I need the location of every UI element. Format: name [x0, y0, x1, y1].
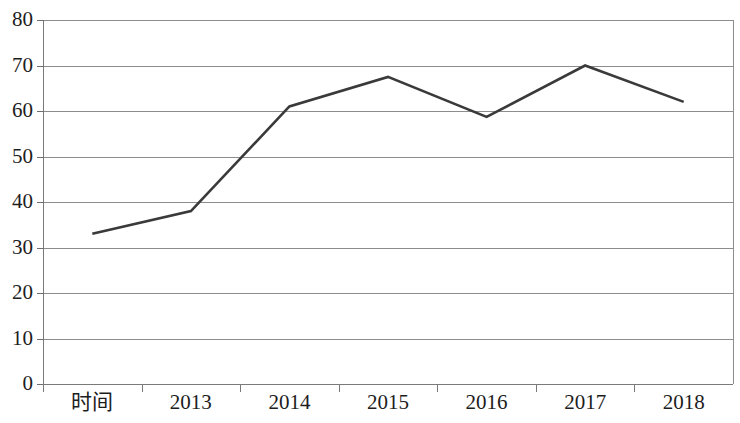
y-axis-label: 50 — [12, 146, 33, 167]
y-axis-label: 20 — [12, 282, 33, 303]
gridline-40 — [43, 202, 733, 203]
y-tick-10 — [37, 339, 44, 340]
x-tick-4 — [437, 384, 438, 392]
gridline-70 — [43, 66, 733, 67]
x-axis-label-时间: 时间 — [71, 392, 113, 413]
x-tick-1 — [142, 384, 143, 392]
x-tick-3 — [339, 384, 340, 392]
plot-right-border — [733, 20, 734, 384]
y-tick-40 — [37, 202, 44, 203]
x-axis-label-2018: 2018 — [663, 392, 705, 413]
y-axis-label: 0 — [23, 373, 34, 394]
y-axis-label: 70 — [12, 55, 33, 76]
y-axis-label: 60 — [12, 100, 33, 121]
y-tick-60 — [37, 111, 44, 112]
gridline-20 — [43, 293, 733, 294]
y-tick-20 — [37, 293, 44, 294]
line-chart: 80706050403020100 时间20132014201520162017… — [0, 0, 740, 423]
y-axis-label: 40 — [12, 191, 33, 212]
gridline-80 — [43, 20, 733, 21]
y-tick-80 — [37, 20, 44, 21]
y-tick-50 — [37, 157, 44, 158]
x-tick-0 — [43, 384, 44, 392]
y-axis-label: 30 — [12, 237, 33, 258]
y-axis-label: 10 — [12, 328, 33, 349]
x-axis-label-2014: 2014 — [268, 392, 310, 413]
x-axis-label-2017: 2017 — [564, 392, 606, 413]
gridline-50 — [43, 157, 733, 158]
y-axis-label: 80 — [12, 9, 33, 30]
x-tick-2 — [240, 384, 241, 392]
x-axis-label-2015: 2015 — [367, 392, 409, 413]
gridline-30 — [43, 248, 733, 249]
y-tick-30 — [37, 248, 44, 249]
gridline-0 — [43, 384, 733, 385]
x-tick-5 — [536, 384, 537, 392]
gridline-60 — [43, 111, 733, 112]
x-axis-label-2016: 2016 — [466, 392, 508, 413]
y-tick-70 — [37, 66, 44, 67]
x-axis-label-2013: 2013 — [170, 392, 212, 413]
x-tick-6 — [634, 384, 635, 392]
gridline-10 — [43, 339, 733, 340]
